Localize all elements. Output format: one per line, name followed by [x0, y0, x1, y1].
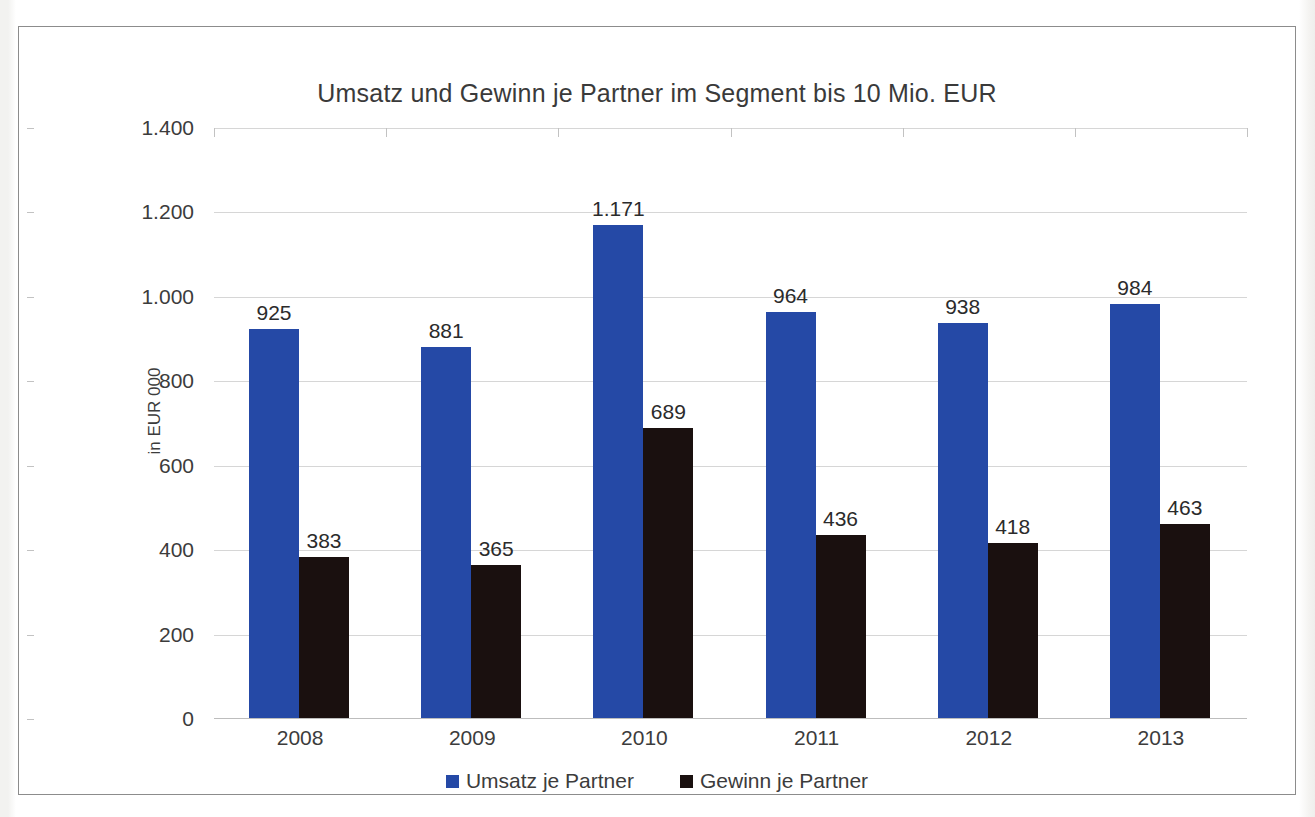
y-axis-tick-label: 1.200 [34, 200, 194, 224]
chart-legend: Umsatz je PartnerGewinn je Partner [19, 769, 1295, 793]
y-axis-tick-mark [27, 128, 34, 129]
bar-group: 881365 [386, 128, 558, 719]
y-axis-tick-mark [27, 466, 34, 467]
bar-umsatz[interactable]: 925 [249, 329, 299, 719]
bar-group: 964436 [731, 128, 903, 719]
legend-label: Umsatz je Partner [466, 769, 634, 793]
x-axis-tick-label: 2011 [731, 726, 903, 750]
bar-gewinn[interactable]: 463 [1160, 524, 1210, 719]
bar-value-label: 365 [451, 537, 541, 561]
x-axis-separator [214, 128, 215, 137]
chart-frame: Umsatz und Gewinn je Partner im Segment … [18, 26, 1296, 795]
bar-group: 984463 [1075, 128, 1247, 719]
bar-value-label: 938 [918, 295, 1008, 319]
y-axis-tick-mark [27, 381, 34, 382]
bar-value-label: 418 [968, 515, 1058, 539]
bar-value-label: 436 [796, 507, 886, 531]
bar-gewinn[interactable]: 383 [299, 557, 349, 719]
bar-gewinn[interactable]: 436 [816, 535, 866, 719]
bar-value-label: 881 [401, 319, 491, 343]
y-axis-tick-label: 800 [34, 369, 194, 393]
x-axis-tick-label: 2010 [558, 726, 730, 750]
y-axis-tick-label: 200 [34, 623, 194, 647]
bar-value-label: 964 [746, 284, 836, 308]
y-axis-tick-label: 400 [34, 538, 194, 562]
bar-umsatz[interactable]: 881 [421, 347, 471, 719]
chart-title: Umsatz und Gewinn je Partner im Segment … [19, 79, 1295, 108]
x-axis-tick-label: 2013 [1075, 726, 1247, 750]
legend-item[interactable]: Gewinn je Partner [680, 769, 868, 793]
bar-value-label: 463 [1140, 496, 1230, 520]
bar-gewinn[interactable]: 689 [643, 428, 693, 719]
page-background: Umsatz und Gewinn je Partner im Segment … [0, 0, 1315, 817]
legend-swatch-icon [680, 775, 693, 788]
legend-item[interactable]: Umsatz je Partner [446, 769, 634, 793]
bar-umsatz[interactable]: 1.171 [593, 225, 643, 719]
y-axis-tick-mark [27, 212, 34, 213]
bar-value-label: 925 [229, 301, 319, 325]
plot-area: 02004006008001.0001.2001.400 92538388136… [214, 128, 1247, 719]
bar-gewinn[interactable]: 418 [988, 543, 1038, 719]
bar-group: 925383 [214, 128, 386, 719]
bar-group: 1.171689 [558, 128, 730, 719]
x-axis-tick-label: 2009 [386, 726, 558, 750]
bar-value-label: 984 [1090, 276, 1180, 300]
x-axis-labels: 200820092010201120122013 [214, 726, 1247, 760]
x-axis-tick-label: 2008 [214, 726, 386, 750]
legend-label: Gewinn je Partner [700, 769, 868, 793]
x-axis-separator [1075, 128, 1076, 137]
bar-group: 938418 [903, 128, 1075, 719]
y-axis-tick-label: 1.400 [34, 116, 194, 140]
y-axis-tick-label: 600 [34, 454, 194, 478]
y-axis-tick-label: 1.000 [34, 285, 194, 309]
x-axis-tick-label: 2012 [903, 726, 1075, 750]
y-axis-tick-mark [27, 297, 34, 298]
legend-swatch-icon [446, 775, 459, 788]
x-axis-separator [558, 128, 559, 137]
axis-baseline [214, 718, 1247, 719]
bar-value-label: 1.171 [573, 197, 663, 221]
x-axis-separator [731, 128, 732, 137]
x-axis-separator [1247, 128, 1248, 137]
x-axis-separator [386, 128, 387, 137]
x-axis-separator [903, 128, 904, 137]
y-axis-tick-mark [27, 635, 34, 636]
bar-value-label: 689 [623, 400, 713, 424]
bar-value-label: 383 [279, 529, 369, 553]
y-axis-tick-mark [27, 550, 34, 551]
y-axis-tick-mark [27, 719, 34, 720]
bar-gewinn[interactable]: 365 [471, 565, 521, 719]
y-axis-tick-label: 0 [34, 707, 194, 731]
